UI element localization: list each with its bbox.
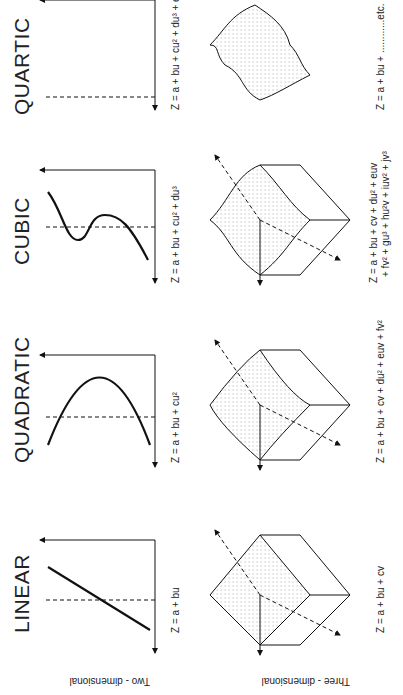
equation-3d-linear: Z = a + bu + cv [375, 566, 386, 633]
plot-3d-quartic [210, 5, 310, 100]
plot-3d-linear [210, 530, 350, 655]
plot-2d-quartic [40, 0, 155, 110]
equation-3d-quadratic: Z = a + bu + cv + du² + euv + fv² [375, 320, 386, 463]
equation-2d-linear: Z = a + bu [170, 587, 181, 633]
plot-2d-quadratic [40, 355, 155, 467]
trend-surface-diagram-page: Two - dimensional Three - dimensional LI… [0, 0, 403, 695]
equation-2d-quartic: Z = a + bu + cu² + du³ + eu⁴ [170, 0, 181, 110]
equation-3d-cubic-line1: Z = a + bu + cv + du² + euv [368, 163, 379, 283]
diagram-graphics [0, 0, 403, 695]
plot-3d-cubic [210, 155, 350, 285]
equation-3d-cubic-line2: + fv² + gu³ + hu²v + iuv² + jv³ [380, 151, 391, 277]
plot-3d-quadratic [210, 340, 350, 470]
plot-2d-linear [40, 540, 155, 653]
plot-2d-cubic [40, 170, 155, 283]
equation-3d-quartic: Z = a + bu + ............etc. [375, 4, 386, 110]
equation-2d-quadratic: Z = a + bu + cu² [170, 392, 181, 463]
equation-2d-cubic: Z = a + bu + cu² + du³ [170, 186, 181, 283]
